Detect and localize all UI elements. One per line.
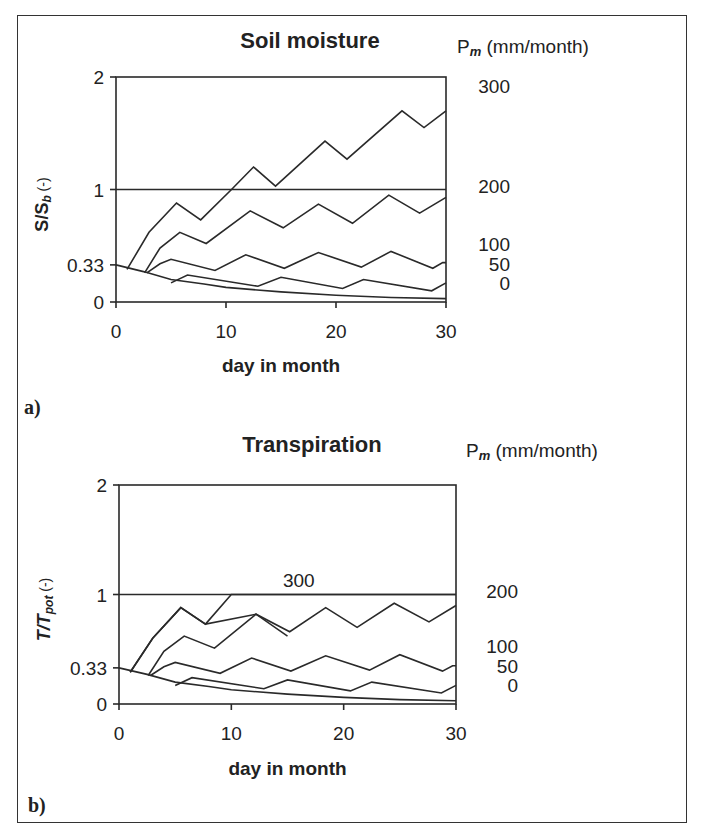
chart-title: Transpiration — [242, 432, 381, 457]
series-label-300: 300 — [478, 76, 510, 97]
y-axis-label: S/Sb (-) — [32, 177, 54, 231]
x-tick-label: 10 — [215, 321, 236, 342]
series-line-50 — [171, 275, 446, 291]
y-tick-label: 0 — [96, 694, 107, 715]
y-tick-label: 2 — [96, 475, 107, 496]
inline-series-label: 300 — [283, 570, 315, 591]
chart-title: Soil moisture — [240, 28, 379, 53]
y-axis-label: T/Tpot (-) — [34, 578, 56, 642]
chart-soil-moisture: 00.33120102030Soil moisturePm (mm/month)… — [32, 28, 589, 376]
series-label-0: 0 — [507, 675, 518, 696]
x-tick-label: 0 — [111, 321, 122, 342]
series-label-50: 50 — [497, 656, 518, 677]
panel-label-a: a) — [24, 396, 41, 419]
series-label-200: 200 — [486, 581, 518, 602]
series-line-200 — [145, 195, 446, 273]
series-line-100 — [148, 614, 287, 675]
series-line-50 — [175, 678, 456, 693]
panel-label-b: b) — [28, 794, 46, 817]
series-line-300 — [130, 595, 456, 673]
series-line-0 — [116, 265, 446, 299]
series-line-100 — [147, 251, 446, 272]
x-tick-label: 30 — [435, 321, 456, 342]
x-tick-label: 0 — [114, 723, 125, 744]
series-label-100: 100 — [478, 234, 510, 255]
chart-transpiration: 00.33120102030TranspirationPm (mm/month)… — [34, 432, 598, 779]
figure-svg: 00.33120102030Soil moisturePm (mm/month)… — [0, 0, 708, 836]
y-tick-label: 1 — [96, 585, 107, 606]
y-tick-label: 1 — [93, 180, 104, 201]
series-line-0 — [119, 668, 456, 701]
y-tick-label: 0.33 — [67, 255, 104, 276]
series-line-200 — [130, 603, 456, 672]
x-tick-label: 20 — [333, 723, 354, 744]
right-axis-title: Pm (mm/month) — [466, 440, 598, 463]
y-tick-label: 0.33 — [70, 658, 107, 679]
x-axis-label: day in month — [228, 758, 346, 779]
y-tick-label: 0 — [93, 292, 104, 313]
series-line-100b — [151, 655, 457, 676]
series-label-50: 50 — [489, 254, 510, 275]
x-axis-label: day in month — [222, 355, 340, 376]
series-label-100: 100 — [486, 636, 518, 657]
y-tick-label: 2 — [93, 67, 104, 88]
right-axis-title: Pm (mm/month) — [457, 36, 589, 59]
x-tick-label: 10 — [221, 723, 242, 744]
series-label-200: 200 — [478, 176, 510, 197]
x-tick-label: 30 — [445, 723, 466, 744]
x-tick-label: 20 — [325, 321, 346, 342]
series-label-0: 0 — [499, 273, 510, 294]
